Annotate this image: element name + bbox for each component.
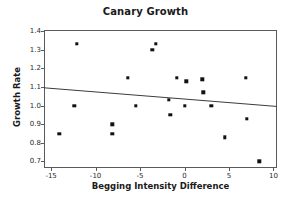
x-tick-mark xyxy=(273,168,274,171)
data-point xyxy=(73,104,76,107)
x-tick-mark xyxy=(96,168,97,171)
data-point xyxy=(201,78,204,81)
data-point xyxy=(258,160,261,163)
data-point xyxy=(183,104,186,107)
data-point xyxy=(167,98,170,101)
data-point xyxy=(245,117,248,120)
x-tick-mark xyxy=(140,168,141,171)
data-point xyxy=(126,76,129,79)
x-axis-title: Begging Intensity Difference xyxy=(44,181,277,191)
data-point xyxy=(169,113,172,116)
data-point xyxy=(111,122,114,125)
data-point xyxy=(151,48,154,51)
data-point xyxy=(111,132,114,135)
scatter-points-layer xyxy=(44,30,277,168)
data-point xyxy=(244,76,247,79)
data-point xyxy=(134,104,137,107)
data-point xyxy=(185,80,188,83)
y-axis-title: Growth Rate xyxy=(12,47,22,147)
data-point xyxy=(154,42,157,45)
data-point xyxy=(57,132,60,135)
chart-container: Canary Growth 0.70.80.91.01.11.21.31.4 -… xyxy=(0,0,291,197)
data-point xyxy=(175,76,178,79)
data-point xyxy=(209,104,212,107)
data-point xyxy=(75,42,78,45)
x-tick-mark xyxy=(185,168,186,171)
x-tick-mark xyxy=(229,168,230,171)
x-tick-mark xyxy=(51,168,52,171)
data-point xyxy=(201,91,204,94)
data-point xyxy=(223,136,226,139)
